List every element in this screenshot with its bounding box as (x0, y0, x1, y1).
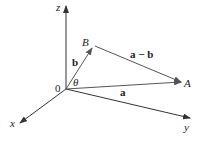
y-axis (66, 89, 190, 118)
point-B-label: B (82, 36, 89, 48)
vector-a-minus-b-label: a − b (130, 48, 153, 60)
angle-theta-label: θ (73, 76, 79, 88)
x-axis-label: x (9, 117, 15, 129)
vector-diagram: z x y 0 B A b a a − b θ (0, 0, 197, 142)
vector-b (66, 48, 92, 89)
z-axis-label: z (55, 1, 61, 13)
y-axis-label: y (183, 121, 189, 133)
vector-b-label: b (72, 56, 78, 68)
x-axis (20, 89, 66, 123)
origin-label: 0 (55, 82, 61, 94)
vector-a-label: a (120, 86, 126, 98)
point-A-label: A (183, 77, 191, 89)
